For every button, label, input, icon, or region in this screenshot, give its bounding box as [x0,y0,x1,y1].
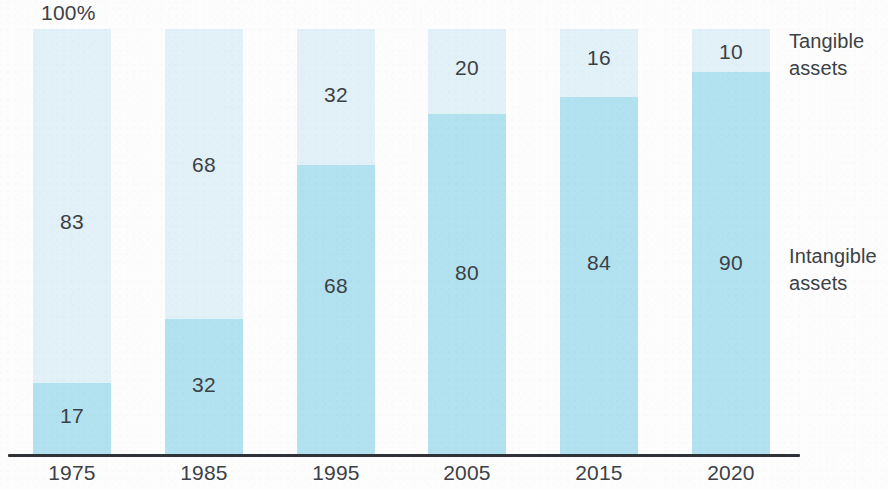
bar-2005: 2080 [428,29,506,455]
plot-area: 100% 831768323268208016841090 1975198519… [0,0,888,490]
segment-value-tangible: 20 [455,57,479,78]
segment-tangible-1995: 32 [297,29,375,165]
x-tick-2005: 2005 [428,461,506,485]
bar-stack: 6832 [165,29,243,455]
legend-item-tangible-assets: Tangible assets [789,28,888,81]
bar-stack: 1684 [560,29,638,455]
segment-value-intangible: 90 [719,252,743,273]
segment-intangible-2005: 80 [428,114,506,455]
segment-value-tangible: 32 [324,84,348,105]
x-tick-2015: 2015 [560,461,638,485]
x-tick-1995: 1995 [297,461,375,485]
segment-value-intangible: 68 [324,275,348,296]
segment-intangible-2020: 90 [692,72,770,455]
segment-tangible-2005: 20 [428,29,506,114]
segment-intangible-1995: 68 [297,165,375,455]
bar-stack: 3268 [297,29,375,455]
segment-tangible-2015: 16 [560,29,638,97]
x-tick-2020: 2020 [692,461,770,485]
segment-value-tangible: 16 [587,47,611,68]
legend-tangible-line2: assets [789,55,888,82]
legend-intangible-line1: Intangible [789,243,888,270]
x-axis-line [8,454,800,457]
bar-1995: 3268 [297,29,375,455]
chart-container: 100% 831768323268208016841090 1975198519… [0,0,888,490]
segment-value-intangible: 17 [60,405,84,426]
segment-value-intangible: 80 [455,262,479,283]
segment-tangible-2020: 10 [692,29,770,72]
legend-intangible-line2: assets [789,270,888,297]
legend-item-intangible-assets: Intangible assets [789,243,888,296]
segment-tangible-1975: 83 [33,29,111,383]
bar-1985: 6832 [165,29,243,455]
segment-value-tangible: 83 [60,211,84,232]
axis-max-annotation: 100% [41,1,96,25]
segment-intangible-1975: 17 [33,383,111,455]
segment-intangible-2015: 84 [560,97,638,455]
segment-value-intangible: 84 [587,252,611,273]
segment-value-tangible: 10 [719,41,743,62]
bar-1975: 8317 [33,29,111,455]
segment-intangible-1985: 32 [165,319,243,455]
segment-value-intangible: 32 [192,374,216,395]
bar-2020: 1090 [692,29,770,455]
bar-2015: 1684 [560,29,638,455]
segment-tangible-1985: 68 [165,29,243,319]
bar-stack: 2080 [428,29,506,455]
bar-stack: 1090 [692,29,770,455]
x-tick-1975: 1975 [33,461,111,485]
x-tick-1985: 1985 [165,461,243,485]
segment-value-tangible: 68 [192,154,216,175]
legend-tangible-line1: Tangible [789,28,888,55]
bar-stack: 8317 [33,29,111,455]
